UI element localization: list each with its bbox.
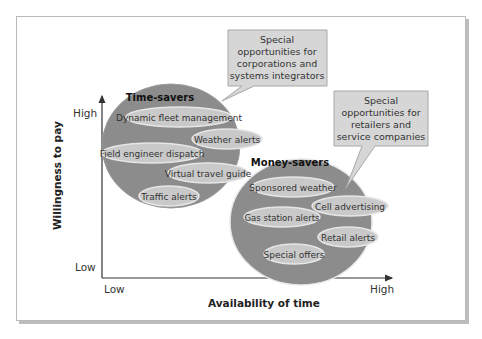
- item-label: Gas station alerts: [245, 213, 321, 223]
- callout-retailers: Special opportunities for retailers and …: [334, 91, 428, 188]
- item-label: Sponsored weather: [249, 183, 337, 193]
- callout-line: Special: [364, 95, 398, 106]
- item-label: Weather alerts: [194, 135, 261, 145]
- callout-corporations: Special opportunities for corporations a…: [222, 30, 327, 101]
- item-label: Special offers: [264, 250, 325, 260]
- money-savers-group: Money-savers Sponsored weather Cell adve…: [230, 157, 388, 285]
- x-axis-high-label: High: [370, 283, 394, 295]
- time-savers-group: Time-savers Dynamic fleet management Wea…: [100, 84, 262, 208]
- callout-line: opportunities for: [237, 46, 316, 57]
- callout-line: Special: [260, 34, 294, 45]
- group-title: Time-savers: [126, 92, 195, 103]
- diagram: High Low Willingness to pay Low High Ava…: [0, 0, 482, 339]
- x-axis-title: Availability of time: [208, 297, 320, 309]
- y-axis-title: Willingness to pay: [51, 121, 63, 230]
- item-label: Retail alerts: [321, 233, 375, 243]
- item-label: Virtual travel guide: [165, 169, 252, 179]
- y-axis-high-label: High: [73, 107, 97, 119]
- callout-line: systems integrators: [230, 70, 325, 81]
- callout-line: corporations and: [237, 58, 318, 69]
- callout-line: opportunities for: [341, 107, 420, 118]
- x-axis-low-label: Low: [104, 283, 125, 295]
- item-label: Cell advertising: [315, 202, 385, 212]
- group-title: Money-savers: [251, 157, 329, 168]
- y-axis-low-label: Low: [75, 261, 96, 273]
- item-label: Traffic alerts: [140, 192, 197, 202]
- item-label: Dynamic fleet management: [116, 113, 242, 123]
- callout-line: retailers and: [351, 119, 411, 130]
- callout-line: service companies: [337, 131, 426, 142]
- item-label: Field engineer dispatch: [100, 149, 205, 159]
